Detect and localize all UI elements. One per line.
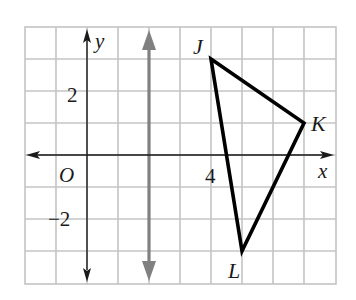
tick-label-y-neg2: −2 bbox=[48, 207, 70, 231]
tick-label-x-4: 4 bbox=[205, 164, 216, 188]
coordinate-plane-figure: y x O 2 −2 4 J K L bbox=[0, 0, 356, 300]
vertex-label-j: J bbox=[193, 34, 204, 59]
x-axis-label: x bbox=[317, 159, 328, 183]
tick-label-y-2: 2 bbox=[67, 83, 78, 107]
y-axis-label: y bbox=[93, 29, 105, 53]
vertex-label-l: L bbox=[227, 258, 240, 283]
vertex-label-k: K bbox=[310, 111, 327, 136]
origin-label: O bbox=[59, 163, 74, 187]
